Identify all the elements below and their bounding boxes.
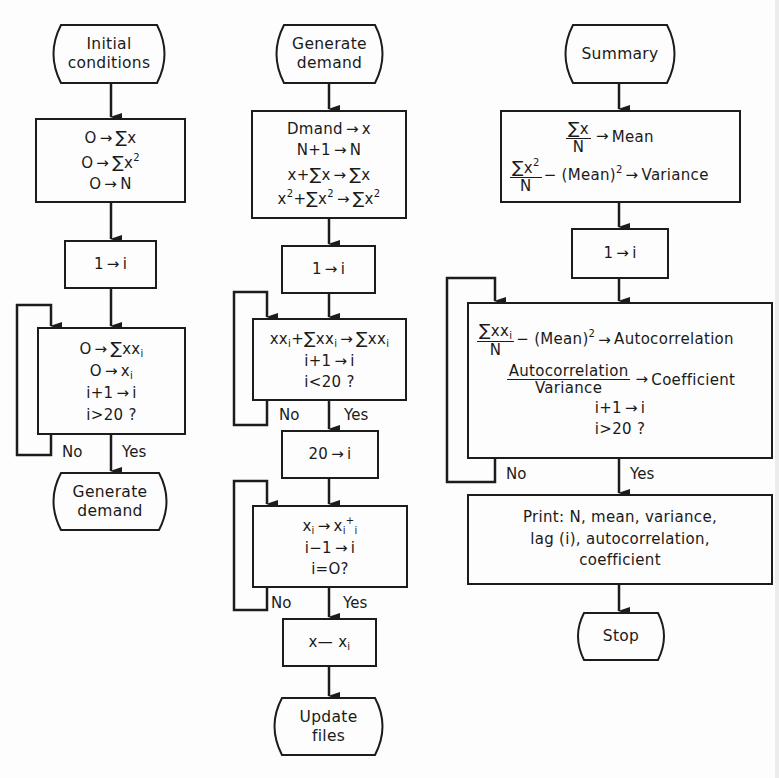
stmt-coefficient: AutocorrelationVariance→Coefficient: [505, 363, 736, 397]
terminal-label-line2: conditions: [68, 54, 151, 73]
terminal-label-line2: demand: [292, 54, 367, 73]
branch-label-yes: Yes: [630, 465, 654, 483]
process-compute-mean-variance: ∑xN→Mean ∑x2N− (Mean)2→Variance: [500, 110, 741, 203]
process-set-i-1: 1→i: [281, 245, 376, 294]
stmt-zero-sum-x2: O→∑x2: [81, 151, 140, 174]
stmt-one-to-i: 1→i: [94, 255, 127, 275]
process-set-i-1: 1→i: [571, 228, 669, 279]
branch-label-yes: Yes: [343, 594, 367, 612]
process-decision-clear-lags: O→∑xxi O→xi i+1→i i>20 ?: [37, 327, 186, 435]
decision-i-eq-0: i=O?: [311, 560, 349, 580]
stmt-accumulate-sum-xxi: xxi+∑xxi→∑xxi: [270, 327, 390, 350]
process-store-x: x— xi: [282, 618, 377, 667]
stmt-mean: ∑xN→Mean: [564, 119, 654, 155]
branch-label-yes: Yes: [344, 406, 368, 424]
terminal-summary: Summary: [557, 24, 683, 84]
fraction-autocorr-over-variance: AutocorrelationVariance: [507, 363, 631, 397]
stmt-zero-sum-xxi: O→∑xxi: [79, 337, 143, 360]
stmt-one-to-i: 1→i: [312, 260, 345, 280]
stmt-shift-xi: xi→xi+i: [302, 514, 357, 537]
process-decision-accumulate-lag-products: xxi+∑xxi→∑xxi i+1→i i<20 ?: [252, 318, 407, 401]
terminal-label-line1: Initial: [68, 35, 151, 54]
fraction-sum-xxi-over-n: ∑xxiN: [477, 321, 514, 359]
stmt-accumulate-sum-x2: x2+∑x2→∑x2: [278, 187, 381, 210]
terminal-initial-conditions: Initial conditions: [45, 24, 173, 84]
print-line-1: Print: N, mean, variance,: [523, 508, 717, 528]
terminal-update-files: Update files: [266, 697, 391, 756]
stmt-accumulate-sum-x: x+∑x→∑x: [288, 163, 371, 186]
process-set-i-1: 1→i: [64, 240, 157, 289]
stmt-increment-i: i+1→i: [595, 399, 646, 419]
process-print-results: Print: N, mean, variance, lag (i), autoc…: [467, 494, 773, 585]
terminal-label-line1: Generate: [73, 483, 148, 502]
print-line-2: lag (i), autocorrelation,: [530, 530, 710, 550]
fraction-sum-x-over-n: ∑xN: [566, 119, 591, 155]
decision-i-gt-20: i>20 ?: [86, 406, 136, 426]
stmt-decrement-i: i−1→i: [305, 539, 356, 559]
stmt-variance: ∑x2N− (Mean)2→Variance: [508, 157, 709, 194]
process-accumulate-demand: Dmand→x N+1→N x+∑x→∑x x2+∑x2→∑x2: [251, 110, 407, 219]
stmt-twenty-to-i: 20→i: [308, 445, 351, 465]
stmt-zero-sum-x: O→∑x: [85, 126, 137, 149]
terminal-generate-demand-entry: Generate demand: [268, 24, 391, 84]
branch-label-no: No: [506, 465, 526, 483]
stmt-increment-n: N+1→N: [297, 141, 362, 161]
branch-label-no: No: [62, 443, 82, 461]
stmt-increment-i: i+1→i: [304, 352, 355, 372]
page-edge-shadow: [775, 0, 779, 778]
decision-i-gt-20: i>20 ?: [595, 420, 645, 440]
branch-label-no: No: [271, 594, 291, 612]
stmt-dmand-to-x: Dmand→x: [287, 120, 371, 140]
stmt-autocorrelation: ∑xxiN− (Mean)2→Autocorrelation: [475, 321, 734, 359]
terminal-label-line1: Generate: [292, 35, 367, 54]
terminal-label-line2: demand: [73, 502, 148, 521]
terminal-stop: Stop: [571, 612, 671, 661]
process-decision-autocorrelation: ∑xxiN− (Mean)2→Autocorrelation Autocorre…: [467, 302, 773, 459]
stmt-zero-xi: O→xi: [90, 362, 133, 382]
terminal-label: Stop: [603, 627, 639, 646]
terminal-generate-demand-exit: Generate demand: [45, 472, 175, 531]
decision-i-lt-20: i<20 ?: [304, 373, 354, 393]
process-set-i-20: 20→i: [281, 430, 379, 479]
branch-label-yes: Yes: [122, 443, 146, 461]
flowchart-canvas: Initial conditions O→∑x O→∑x2 O→N 1→i O→…: [0, 0, 779, 778]
terminal-label-line1: Update: [300, 708, 358, 727]
stmt-one-to-i: 1→i: [603, 244, 636, 264]
stmt-x-to-xi: x— xi: [309, 633, 351, 653]
branch-label-no: No: [279, 406, 299, 424]
process-initialize-sums: O→∑x O→∑x2 O→N: [35, 118, 186, 203]
fraction-sum-x2-over-n: ∑x2N: [510, 157, 542, 194]
stmt-increment-i: i+1→i: [86, 384, 137, 404]
process-decision-shift-lags: xi→xi+i i−1→i i=O?: [252, 505, 408, 588]
terminal-label: Summary: [581, 45, 658, 64]
print-line-3: coefficient: [579, 551, 661, 571]
terminal-label-line2: files: [300, 727, 358, 746]
stmt-zero-n: O→N: [89, 175, 132, 195]
